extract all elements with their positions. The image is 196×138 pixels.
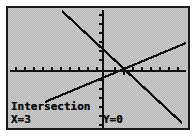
- calc-readout-row: Intersection X=3 Y=0: [8, 101, 188, 127]
- y-coordinate-readout: Y=0: [103, 114, 123, 125]
- series-increasing-line: [45, 43, 186, 102]
- lcd-frame: Intersection X=3 Y=0: [6, 6, 190, 130]
- x-axis-ticks: [15, 67, 179, 70]
- x-coordinate-readout: X=3: [11, 114, 31, 125]
- x-axis: [10, 67, 186, 72]
- intersection-mode-label: Intersection: [11, 101, 90, 112]
- calculator-screen: Intersection X=3 Y=0: [0, 0, 196, 138]
